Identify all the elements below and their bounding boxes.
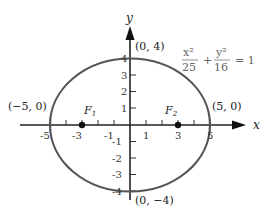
y-tick-label: 3 (121, 70, 127, 81)
equation-equals: = 1 (235, 54, 255, 67)
equation-term2-numerator: y² (215, 46, 227, 59)
focus-f1-point (79, 122, 85, 128)
vertex-bottom-label: (0, −4) (135, 194, 174, 207)
y-tick-label: -2 (112, 153, 122, 164)
y-tick-label: -3 (112, 169, 122, 180)
x-tick-label: -3 (72, 130, 82, 141)
vertex-right-label: (5, 0) (212, 100, 242, 113)
x-tick-label: 3 (175, 130, 181, 141)
y-tick-label: -4 (112, 186, 122, 197)
equation-term1-numerator: x² (183, 46, 194, 59)
equation-term1-denominator: 25 (182, 61, 196, 74)
x-tick-label: -5 (40, 130, 50, 141)
equation-term2-denominator: 16 (214, 61, 228, 74)
y-axis-arrow-icon (126, 26, 135, 40)
y-tick-label: -1 (112, 136, 122, 147)
x-tick-label: 1 (143, 130, 149, 141)
ellipse-equation: x² 25 + y² 16 = 1 (182, 46, 255, 74)
equation-plus: + (203, 54, 212, 67)
x-axis-arrow-icon (232, 121, 246, 130)
y-tick-label: 4 (121, 53, 127, 64)
vertex-left-label: (−5, 0) (8, 100, 47, 113)
focus-f1-label: F1 (83, 104, 96, 118)
y-tick-label: 2 (121, 86, 127, 97)
y-tick-label: 1 (121, 103, 127, 114)
x-axis-label: x (253, 118, 260, 132)
y-axis-label: y (125, 11, 133, 25)
focus-f2-point (175, 122, 181, 128)
ellipse-diagram: y x -5 -3 -1 1 3 5 4 3 2 1 -1 -2 -3 -4 (… (0, 0, 269, 208)
focus-f2-label: F2 (164, 104, 178, 118)
vertex-top-label: (0, 4) (135, 40, 165, 53)
x-tick-label: 5 (207, 130, 213, 141)
